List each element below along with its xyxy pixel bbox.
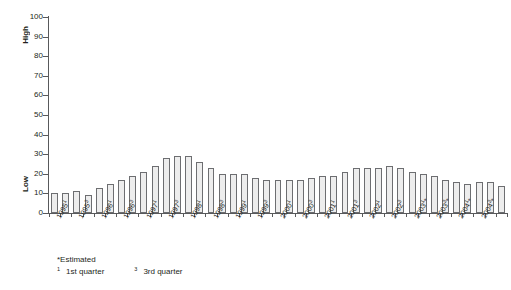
x-axis-tick-labels: 1995119953199611996319971199731998119983… [0,213,511,257]
footnote-first-quarter: 1st quarter [66,266,104,277]
bar [342,172,349,213]
y-tick-label-90: 90 [19,33,43,41]
footnote-quarters: 1 1st quarter 3 3rd quarter [57,266,497,278]
y-tick-label-50: 50 [19,111,43,119]
y-tick-label-10: 10 [19,189,43,197]
bar [140,172,147,213]
bar [476,182,483,213]
y-tick-label-80: 80 [19,52,43,60]
footnote-sup-1: 1 [57,264,60,275]
quarterly-bar-chart: High Low 0102030405060708090100 19951199… [0,0,511,290]
y-tick-label-100: 100 [19,13,43,21]
footnote-third-quarter: 3rd quarter [143,266,182,277]
bar [208,168,215,213]
bar [275,180,282,213]
bar [297,180,304,213]
bar [386,166,393,213]
footnote-estimated: *Estimated [57,255,497,265]
footnotes: *Estimated 1 1st quarter 3 3rd quarter [57,255,497,278]
y-tick-label-40: 40 [19,131,43,139]
bar [431,176,438,213]
bar [498,186,505,213]
y-tick-label-20: 20 [19,170,43,178]
bar [319,176,326,213]
footnote-sup-3: 3 [134,264,137,275]
y-tick-label-70: 70 [19,72,43,80]
y-tick-label-30: 30 [19,150,43,158]
bar [163,158,170,213]
bar-series [49,17,507,213]
bar [230,174,237,213]
y-tick-label-60: 60 [19,91,43,99]
bar [185,156,192,213]
bar [409,172,416,213]
bar [364,168,371,213]
